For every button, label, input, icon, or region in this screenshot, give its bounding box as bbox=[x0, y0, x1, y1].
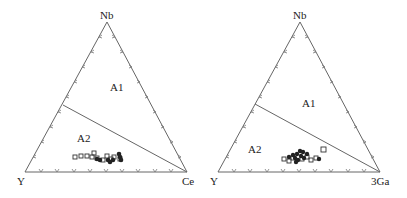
field-divider bbox=[255, 104, 380, 172]
vertex-label-right: 3Ga bbox=[371, 175, 389, 187]
vertex-label-left: Y bbox=[210, 175, 218, 187]
tick-marks bbox=[33, 35, 181, 172]
ternary-left bbox=[25, 22, 187, 172]
vertex-label-left: Y bbox=[17, 175, 25, 187]
vertex-label-right: Ce bbox=[182, 175, 194, 187]
field-label-a2: A2 bbox=[248, 143, 261, 155]
triangle-outline bbox=[25, 22, 187, 172]
field-label-a2: A2 bbox=[77, 132, 90, 144]
field-label-a1: A1 bbox=[302, 97, 315, 109]
vertex-label-top: Nb bbox=[293, 9, 307, 21]
field-label-a1: A1 bbox=[110, 81, 123, 93]
vertex-label-top: Nb bbox=[100, 9, 114, 21]
ternary-right bbox=[218, 22, 380, 172]
diagram-canvas: Nb Y Ce A1 A2 Nb Y 3Ga A1 A2 bbox=[0, 0, 407, 198]
data-points-filled-circles bbox=[287, 149, 321, 164]
